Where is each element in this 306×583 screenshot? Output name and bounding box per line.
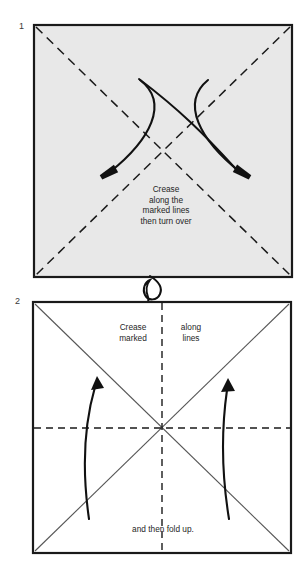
step-2-panel-group: [33, 302, 291, 553]
step-2-caption-bottom: and then fold up.: [103, 524, 223, 535]
step-2-caption-left: Crease marked: [108, 322, 158, 343]
origami-diagram: [0, 0, 306, 583]
origami-instruction-sheet: 1 Crease along the marked lines then tur…: [0, 0, 306, 583]
step-1-panel-group: [34, 25, 292, 277]
step-2-caption-right: along lines: [168, 322, 214, 343]
step-1-caption: Crease along the marked lines then turn …: [128, 184, 204, 226]
step-2-number: 2: [15, 297, 20, 306]
step-1-number: 1: [19, 22, 24, 31]
